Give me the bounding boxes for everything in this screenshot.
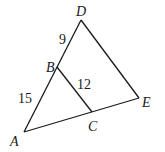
- vertex-label-C: C: [88, 119, 98, 134]
- segment-AE: [24, 98, 139, 132]
- vertex-label-B: B: [46, 60, 55, 75]
- segment-AD: [24, 20, 81, 132]
- vertex-label-A: A: [9, 134, 19, 149]
- length-label-BC: 12: [77, 77, 91, 92]
- vertex-label-E: E: [141, 95, 151, 110]
- geometry-diagram: D B A C E 9 15 12: [0, 0, 165, 152]
- vertex-label-D: D: [75, 4, 86, 19]
- triangle-figure: D B A C E 9 15 12: [0, 0, 165, 152]
- length-label-BA: 15: [18, 91, 32, 106]
- length-label-DB: 9: [59, 32, 66, 47]
